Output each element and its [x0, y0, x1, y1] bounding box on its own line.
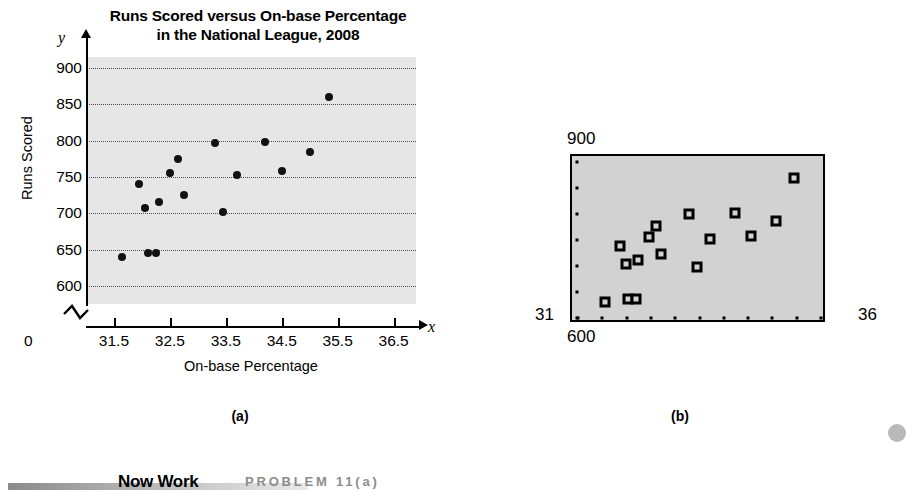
data-point	[152, 249, 160, 257]
y-tick-label: 750	[36, 168, 82, 186]
x-tick-label: 36.5	[364, 332, 424, 350]
y-tick-label: 900	[36, 59, 82, 77]
y-axis-break-icon	[62, 300, 92, 320]
x-tick	[394, 318, 396, 327]
data-point	[118, 253, 126, 261]
data-point	[306, 148, 314, 156]
x-tick-label: 34.5	[252, 332, 312, 350]
calc-data-point	[620, 259, 631, 270]
calc-y-axis-tick	[576, 213, 579, 216]
data-point	[233, 171, 241, 179]
data-point	[180, 191, 188, 199]
calc-xmax-label: 36	[858, 305, 877, 325]
calc-y-axis-tick	[576, 187, 579, 190]
calc-x-axis-tick	[820, 317, 823, 320]
calc-x-axis-tick	[747, 317, 750, 320]
gridline	[86, 141, 416, 142]
calc-data-point	[600, 296, 611, 307]
x-tick	[338, 318, 340, 327]
calc-xmin-label: 31	[535, 305, 554, 325]
y-tick-labels: 600650700750800850900	[32, 0, 82, 440]
x-tick-label: 33.5	[196, 332, 256, 350]
calc-y-axis-tick	[576, 161, 579, 164]
x-tick	[170, 318, 172, 327]
x-axis-arrow-icon	[419, 320, 428, 330]
calc-y-axis-tick	[576, 291, 579, 294]
page-corner-dot	[888, 424, 906, 442]
x-axis-title: On-base Percentage	[86, 358, 416, 374]
calc-ymin-label: 600	[567, 327, 595, 347]
x-axis-symbol: x	[428, 318, 435, 336]
gridline	[86, 250, 416, 251]
calc-data-point	[704, 233, 715, 244]
data-point	[144, 249, 152, 257]
page-title: Runs Scored versus On-base Percentage in…	[58, 6, 458, 44]
calc-data-point	[630, 293, 641, 304]
y-axis-arrow-icon	[81, 29, 91, 38]
calc-y-axis-tick	[576, 265, 579, 268]
calc-data-point	[771, 215, 782, 226]
x-tick	[226, 318, 228, 327]
calc-data-point	[691, 261, 702, 272]
calc-data-point	[643, 232, 654, 243]
origin-label: 0	[24, 332, 33, 350]
y-tick-label: 700	[36, 204, 82, 222]
data-point	[166, 169, 174, 177]
calc-data-point	[730, 208, 741, 219]
data-point	[155, 198, 163, 206]
data-point	[325, 93, 333, 101]
data-point	[174, 155, 182, 163]
calc-data-point	[656, 249, 667, 260]
calc-x-axis-tick	[674, 317, 677, 320]
calc-data-point	[745, 230, 756, 241]
calc-x-axis-tick	[722, 317, 725, 320]
y-tick-label: 850	[36, 95, 82, 113]
chart-title-line-2: in the National League, 2008	[58, 25, 458, 44]
calc-data-point	[651, 221, 662, 232]
gridline	[86, 286, 416, 287]
x-tick-label: 32.5	[140, 332, 200, 350]
gridline	[86, 213, 416, 214]
calc-x-axis-tick	[698, 317, 701, 320]
x-tick-label: 35.5	[308, 332, 368, 350]
calc-data-point	[633, 254, 644, 265]
caption-a: (a)	[180, 408, 300, 424]
y-tick-label: 600	[36, 277, 82, 295]
x-axis-line	[86, 326, 421, 328]
plot-area-a	[86, 57, 416, 304]
problem-reference[interactable]: PROBLEM 11(a)	[245, 474, 380, 489]
calc-x-axis-tick	[771, 317, 774, 320]
data-point	[135, 180, 143, 188]
caption-b: (b)	[620, 408, 740, 424]
calc-data-point	[788, 173, 799, 184]
calc-y-axis-tick	[576, 317, 579, 320]
calculator-screen	[570, 154, 825, 322]
x-tick-label: 31.5	[84, 332, 144, 350]
chart-title-line-1: Runs Scored versus On-base Percentage	[58, 6, 458, 25]
data-point	[219, 208, 227, 216]
data-point	[261, 138, 269, 146]
y-axis-title: Runs Scored	[19, 83, 35, 233]
y-tick-label: 650	[36, 241, 82, 259]
figure-panel-a: Runs Scored versus On-base Percentage in…	[0, 0, 470, 440]
gridline	[86, 177, 416, 178]
now-work-label: Now Work	[118, 472, 198, 491]
calc-x-axis-tick	[625, 317, 628, 320]
gridline	[86, 68, 416, 69]
calc-ymax-label: 900	[567, 129, 595, 149]
data-point	[141, 204, 149, 212]
calc-y-axis-tick	[576, 239, 579, 242]
calc-x-axis-tick	[649, 317, 652, 320]
figure-panel-b: 900 31 600 36	[470, 0, 902, 440]
calc-data-point	[615, 240, 626, 251]
calc-x-axis-tick	[601, 317, 604, 320]
data-point	[211, 139, 219, 147]
calc-data-point	[684, 208, 695, 219]
data-point	[278, 167, 286, 175]
x-tick	[114, 318, 116, 327]
calc-x-axis-tick	[795, 317, 798, 320]
x-tick	[282, 318, 284, 327]
gridline	[86, 104, 416, 105]
y-axis-line	[86, 36, 88, 306]
y-tick-label: 800	[36, 132, 82, 150]
